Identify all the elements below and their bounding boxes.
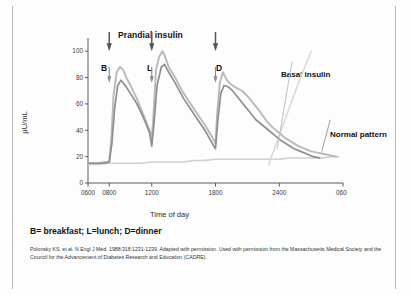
left-border-rule <box>12 6 13 289</box>
svg-text:1200: 1200 <box>145 189 160 196</box>
svg-text:0800: 0800 <box>102 189 117 196</box>
citation-text: Polonsky KS, et al. N Engl J Med. 1988;3… <box>30 246 382 261</box>
svg-text:20: 20 <box>76 153 84 160</box>
right-border-rule <box>395 6 396 289</box>
chart-plot-area: 020406080100060008001200180024000600 <box>62 32 347 192</box>
meal-abbreviation-note: B= breakfast; L=lunch; D=dinner <box>30 226 162 236</box>
svg-text:80: 80 <box>76 74 84 81</box>
svg-text:0: 0 <box>79 179 83 186</box>
svg-text:100: 100 <box>72 47 83 54</box>
svg-text:0600: 0600 <box>336 189 347 196</box>
y-axis-label: µU/mL <box>20 93 29 153</box>
svg-text:1800: 1800 <box>208 189 223 196</box>
insulin-profile-chart: 020406080100060008001200180024000600 <box>62 32 347 217</box>
svg-text:0600: 0600 <box>81 189 96 196</box>
svg-text:2400: 2400 <box>272 189 287 196</box>
figure-page: Prandial insulin µU/mL Time of day B L D… <box>0 0 412 295</box>
svg-text:60: 60 <box>76 100 84 107</box>
svg-text:40: 40 <box>76 127 84 134</box>
